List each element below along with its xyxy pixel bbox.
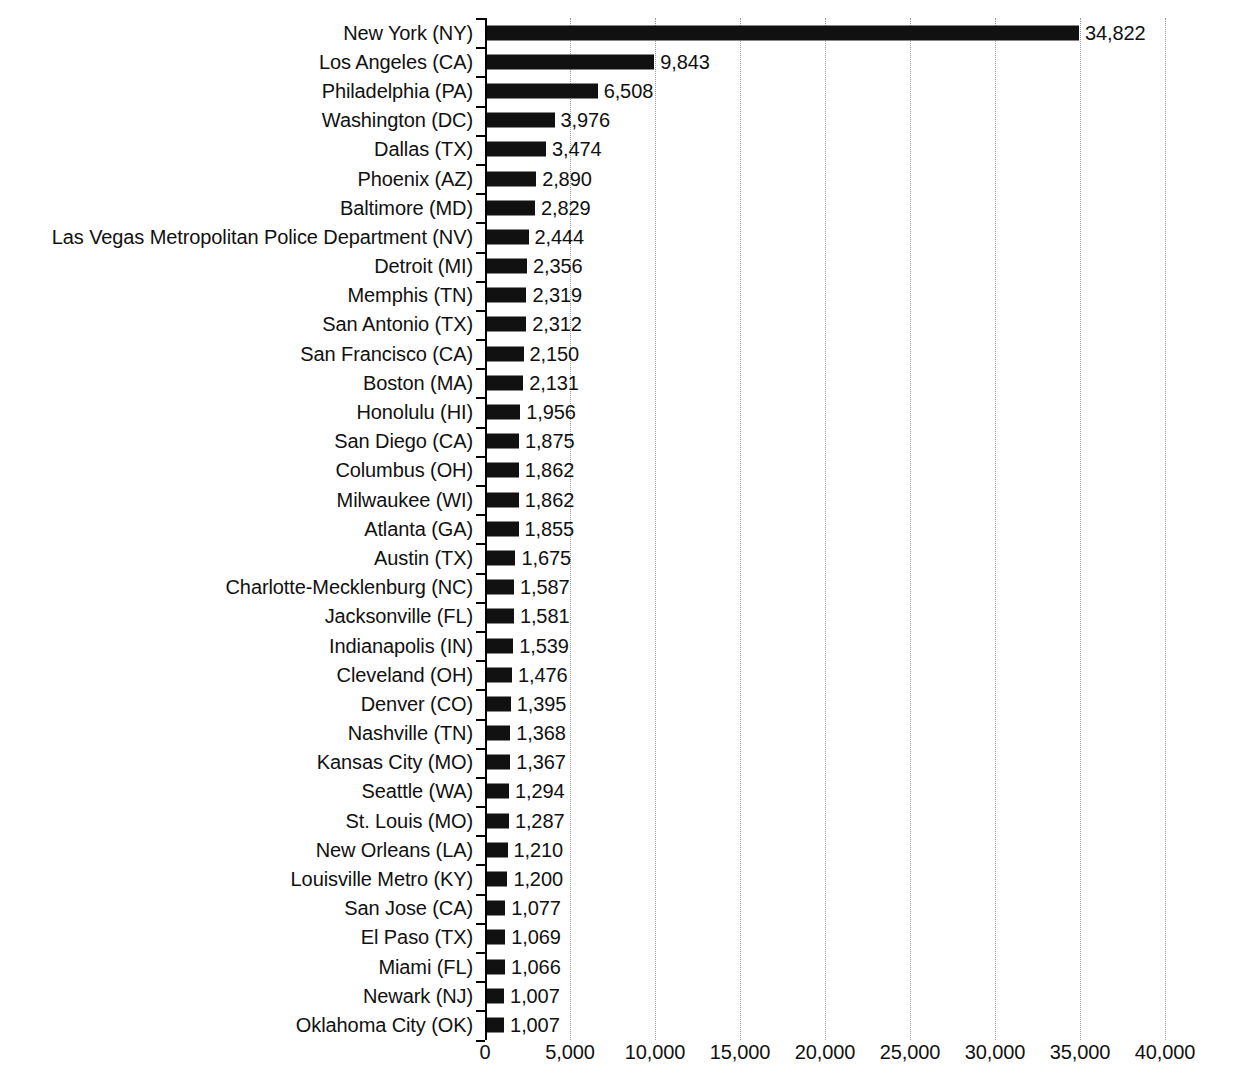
bar-value-label: 2,890 (542, 169, 592, 189)
bar-row: Dallas (TX)3,474 (0, 135, 1247, 164)
bar-value-label: 1,200 (513, 869, 563, 889)
y-axis-tick (476, 777, 485, 779)
x-axis-tick-label: 30,000 (965, 1042, 1026, 1062)
bar-value-label: 3,976 (561, 110, 611, 130)
category-label: San Antonio (TX) (322, 314, 473, 334)
bar-value-label: 1,368 (516, 723, 566, 743)
category-label: Cleveland (OH) (337, 665, 473, 685)
bar (487, 930, 505, 945)
y-axis-tick (476, 719, 485, 721)
bar-row: Charlotte-Mecklenburg (NC)1,587 (0, 573, 1247, 602)
category-label: Milwaukee (WI) (337, 490, 473, 510)
y-axis-tick (476, 18, 485, 20)
bar (487, 317, 526, 332)
bar-value-label: 2,444 (535, 227, 585, 247)
bar (487, 83, 598, 98)
bar-value-label: 1,875 (525, 431, 575, 451)
category-label: Miami (FL) (378, 957, 473, 977)
bar-value-label: 1,587 (520, 577, 570, 597)
y-axis-tick (476, 310, 485, 312)
bar-row: Milwaukee (WI)1,862 (0, 485, 1247, 514)
bar-row: Kansas City (MO)1,367 (0, 748, 1247, 777)
y-axis-tick (476, 981, 485, 983)
category-label: Nashville (TN) (348, 723, 473, 743)
bar-value-label: 2,131 (529, 373, 579, 393)
bar-value-label: 1,007 (510, 986, 560, 1006)
bar-row: New York (NY)34,822 (0, 18, 1247, 47)
y-axis-tick (476, 368, 485, 370)
category-label: Charlotte-Mecklenburg (NC) (226, 577, 473, 597)
category-label: El Paso (TX) (361, 927, 473, 947)
category-label: Newark (NJ) (363, 986, 473, 1006)
category-label: Detroit (MI) (374, 256, 473, 276)
bar-value-label: 1,855 (525, 519, 575, 539)
bar (487, 609, 514, 624)
bar-row: Honolulu (HI)1,956 (0, 397, 1247, 426)
bar-row: Austin (TX)1,675 (0, 543, 1247, 572)
y-axis-tick (476, 864, 485, 866)
y-axis-tick (476, 76, 485, 78)
y-axis-tick (476, 806, 485, 808)
bar-row: Indianapolis (IN)1,539 (0, 631, 1247, 660)
bar-row: Seattle (WA)1,294 (0, 777, 1247, 806)
x-axis-tick-label: 10,000 (625, 1042, 686, 1062)
bar-value-label: 9,843 (660, 52, 710, 72)
y-axis-tick (476, 397, 485, 399)
bar-value-label: 2,356 (533, 256, 583, 276)
bar (487, 200, 535, 215)
bar-value-label: 2,150 (530, 344, 580, 364)
bar-row: San Francisco (CA)2,150 (0, 339, 1247, 368)
category-label: Memphis (TN) (348, 285, 473, 305)
category-label: San Francisco (CA) (300, 344, 473, 364)
bar-value-label: 1,581 (520, 606, 570, 626)
bar-value-label: 2,319 (532, 285, 582, 305)
category-label: San Jose (CA) (344, 898, 473, 918)
bar (487, 521, 519, 536)
y-axis-tick (476, 952, 485, 954)
bar-row: San Jose (CA)1,077 (0, 894, 1247, 923)
bar (487, 842, 508, 857)
bar-row: Jacksonville (FL)1,581 (0, 602, 1247, 631)
bar-row: Los Angeles (CA)9,843 (0, 47, 1247, 76)
bar (487, 375, 523, 390)
y-axis-tick (476, 47, 485, 49)
bar (487, 667, 512, 682)
bar (487, 113, 555, 128)
bar-value-label: 34,822 (1085, 23, 1146, 43)
bar (487, 1017, 504, 1032)
y-axis-tick (476, 1010, 485, 1012)
category-label: Las Vegas Metropolitan Police Department… (52, 227, 473, 247)
bar-row: Las Vegas Metropolitan Police Department… (0, 222, 1247, 251)
y-axis-tick (476, 894, 485, 896)
y-axis-tick (476, 456, 485, 458)
y-axis-tick (476, 485, 485, 487)
category-label: Washington (DC) (322, 110, 473, 130)
category-label: Honolulu (HI) (356, 402, 473, 422)
bar-row: El Paso (TX)1,069 (0, 923, 1247, 952)
bar-row: Denver (CO)1,395 (0, 689, 1247, 718)
y-axis-tick (476, 689, 485, 691)
category-label: New Orleans (LA) (316, 840, 473, 860)
bar-value-label: 1,069 (511, 927, 561, 947)
bar (487, 492, 519, 507)
bar-row: San Diego (CA)1,875 (0, 427, 1247, 456)
bar-value-label: 1,066 (511, 957, 561, 977)
bar (487, 259, 527, 274)
bar-row: Atlanta (GA)1,855 (0, 514, 1247, 543)
bar-value-label: 1,862 (525, 490, 575, 510)
bar (487, 784, 509, 799)
y-axis-tick (476, 748, 485, 750)
bar-rows: New York (NY)34,822Los Angeles (CA)9,843… (0, 18, 1247, 1040)
y-axis-tick (476, 135, 485, 137)
bar-row: Memphis (TN)2,319 (0, 281, 1247, 310)
bar (487, 988, 504, 1003)
bar-row: Columbus (OH)1,862 (0, 456, 1247, 485)
category-label: Atlanta (GA) (364, 519, 473, 539)
bar (487, 755, 510, 770)
bar-row: Boston (MA)2,131 (0, 368, 1247, 397)
bar (487, 142, 546, 157)
category-label: Philadelphia (PA) (322, 81, 473, 101)
bar (487, 550, 515, 565)
bar-row: Oklahoma City (OK)1,007 (0, 1010, 1247, 1039)
bar-row: Cleveland (OH)1,476 (0, 660, 1247, 689)
